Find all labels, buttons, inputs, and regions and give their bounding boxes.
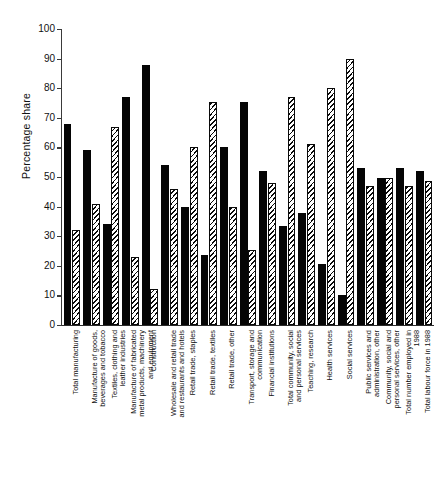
bar-hatched	[190, 147, 198, 325]
bar-hatched	[170, 189, 178, 325]
bar-solid	[161, 165, 169, 325]
bar-solid	[240, 102, 248, 325]
y-tick-mark	[57, 59, 62, 60]
bar-solid	[416, 171, 424, 325]
bar-hatched	[385, 178, 393, 325]
x-axis-label: Teaching, research	[307, 330, 315, 392]
bar-hatched	[327, 88, 335, 325]
bar-solid	[357, 168, 365, 325]
bar-solid	[279, 226, 287, 325]
bar-solid	[338, 295, 346, 325]
y-tick-label: 30	[44, 231, 55, 241]
bar-hatched	[307, 144, 315, 325]
y-tick-mark	[57, 266, 62, 267]
bar-solid	[396, 168, 404, 325]
y-tick-label: 90	[44, 54, 55, 64]
bar-solid	[122, 97, 130, 325]
plot-area: 0102030405060708090100	[62, 29, 434, 325]
y-tick-label: 60	[44, 142, 55, 152]
bar-hatched	[150, 289, 158, 325]
x-axis-label: Public services andadministration, other	[365, 330, 382, 397]
y-tick-label: 0	[49, 320, 55, 330]
x-axis-label: Total community, socialand personal serv…	[287, 330, 304, 406]
bar-solid	[201, 255, 209, 325]
bar-hatched	[229, 207, 237, 325]
bar-hatched	[425, 181, 433, 325]
bar-solid	[83, 150, 91, 325]
x-axis-label: Retail trade, other	[228, 330, 236, 389]
x-axis-label: Manufacture of goods,beverages and tobac…	[91, 330, 108, 407]
x-axis-label: Total number employed in1988	[405, 330, 422, 415]
bar-solid	[298, 213, 306, 325]
y-tick-label: 100	[38, 24, 55, 34]
y-tick-label: 50	[44, 172, 55, 182]
x-axis-label: Total labour force in 1988	[424, 330, 432, 413]
x-axis-label: Retail trade, staples	[189, 330, 197, 395]
x-axis-label: Retail trade, textiles	[209, 330, 217, 395]
bar-solid	[318, 264, 326, 325]
y-tick-label: 20	[44, 261, 55, 271]
y-tick-mark	[57, 88, 62, 89]
y-tick-mark	[57, 29, 62, 30]
bar-solid	[220, 147, 228, 325]
y-axis-title: Percentage share	[20, 66, 32, 206]
bar-hatched	[72, 230, 80, 325]
x-axis-label: Textiles, clothing andleather industries	[111, 330, 128, 399]
bar-solid	[377, 178, 385, 325]
y-tick-mark	[57, 325, 62, 326]
y-tick-label: 40	[44, 202, 55, 212]
y-tick-mark	[57, 118, 62, 119]
y-tick-mark	[57, 207, 62, 208]
x-axis-label: Construction	[150, 330, 158, 372]
x-axis-label: Transport, storage andcommunication	[248, 330, 265, 405]
y-tick-mark	[57, 177, 62, 178]
bar-chart: Percentage share 0102030405060708090100 …	[0, 0, 438, 495]
bar-hatched	[366, 186, 374, 325]
bar-hatched	[268, 183, 276, 325]
bar-solid	[181, 207, 189, 325]
y-tick-label: 10	[44, 290, 55, 300]
x-axis-label: Financial institutions	[268, 330, 276, 397]
x-axis-labels: Total manufacturingManufacture of goods,…	[62, 330, 434, 495]
bar-hatched	[209, 102, 217, 325]
bar-solid	[142, 65, 150, 325]
x-axis-label: Total manufacturing	[72, 330, 80, 395]
bar-solid	[103, 224, 111, 325]
bar-solid	[64, 124, 72, 325]
x-axis-line	[61, 325, 434, 326]
y-tick-mark	[57, 236, 62, 237]
bar-hatched	[111, 127, 119, 325]
bar-hatched	[131, 257, 139, 325]
y-tick-mark	[57, 147, 62, 148]
x-axis-label: Wholesale and retail tradeand restaurant…	[170, 330, 187, 418]
x-axis-label: Health services	[326, 330, 334, 381]
bar-hatched	[405, 186, 413, 325]
bar-solid	[259, 171, 267, 325]
y-tick-label: 70	[44, 113, 55, 123]
x-axis-label: Community, social andpersonal services, …	[385, 330, 402, 408]
bar-hatched	[92, 204, 100, 325]
y-tick-label: 80	[44, 83, 55, 93]
bar-hatched	[346, 59, 354, 325]
y-tick-mark	[57, 295, 62, 296]
x-axis-label: Social services	[346, 330, 354, 379]
bar-hatched	[248, 250, 256, 325]
bar-hatched	[288, 97, 296, 325]
